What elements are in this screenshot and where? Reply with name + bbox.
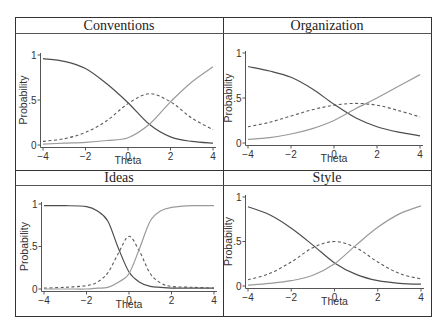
y-axis-label: Probability: [222, 73, 234, 123]
panel-title-conventions: Conventions: [84, 18, 155, 33]
y-tick-label: 0: [31, 140, 37, 151]
panel-title-organization: Organization: [291, 18, 364, 33]
curve-high-category: [44, 206, 214, 289]
x-tick-label: 2: [168, 151, 174, 162]
y-axis-label: Probability: [18, 221, 30, 271]
x-tick-label: −4: [38, 295, 50, 306]
y-tick-label: .5: [29, 241, 38, 252]
x-axis-label: Theta: [321, 295, 348, 307]
x-tick-label: 4: [210, 151, 216, 162]
curve-low-category: [44, 206, 214, 289]
x-tick-label: 2: [375, 292, 381, 303]
panel-style: 0.51−4−2024ThetaProbability: [222, 192, 425, 308]
x-tick-label: 4: [417, 149, 423, 160]
x-axis-label: Theta: [115, 154, 142, 166]
panel-title-ideas: Ideas: [104, 170, 134, 185]
y-tick-label: .5: [28, 95, 37, 106]
curve-low-category: [248, 207, 421, 284]
y-axis-label: Probability: [17, 75, 29, 125]
x-tick-label: −2: [286, 292, 298, 303]
x-tick-label: 2: [374, 149, 380, 160]
y-tick-label: 0: [236, 138, 242, 149]
y-tick-label: .5: [233, 93, 242, 104]
panel-ideas: 0.51−4−2024ThetaProbability: [18, 199, 218, 311]
panel-conventions: 0.51−4−2024ThetaProbability: [17, 50, 217, 167]
figure: Conventions Organization Ideas Style 0.5…: [0, 0, 445, 334]
curve-high-category: [43, 67, 213, 144]
y-tick-label: 1: [236, 48, 242, 59]
x-axis-label: Theta: [321, 152, 348, 164]
curve-middle-category: [248, 242, 421, 280]
x-tick-label: 4: [211, 295, 217, 306]
x-axis-label: Theta: [116, 298, 143, 310]
x-tick-label: −2: [80, 151, 92, 162]
panel-title-style: Style: [313, 170, 342, 185]
y-tick-label: 1: [32, 199, 38, 210]
x-tick-label: 4: [418, 292, 424, 303]
x-tick-label: −4: [37, 151, 49, 162]
y-tick-label: 1: [31, 50, 37, 61]
y-tick-label: 1: [236, 192, 242, 203]
curve-middle-category: [248, 103, 420, 126]
y-tick-label: 0: [236, 281, 242, 292]
panel-organization: 0.51−4−2024ThetaProbability: [222, 48, 424, 165]
x-tick-label: −2: [81, 295, 93, 306]
y-tick-label: .5: [233, 236, 242, 247]
y-tick-label: 0: [32, 284, 38, 295]
x-tick-label: −4: [242, 292, 254, 303]
curve-low-category: [43, 59, 213, 144]
curve-low-category: [248, 67, 420, 136]
x-tick-label: −2: [285, 149, 297, 160]
curve-middle-category: [43, 94, 213, 142]
curve-high-category: [248, 75, 420, 140]
y-axis-label: Probability: [222, 216, 234, 266]
x-tick-label: 2: [169, 295, 175, 306]
curve-middle-category: [44, 236, 214, 288]
x-tick-label: −4: [242, 149, 254, 160]
